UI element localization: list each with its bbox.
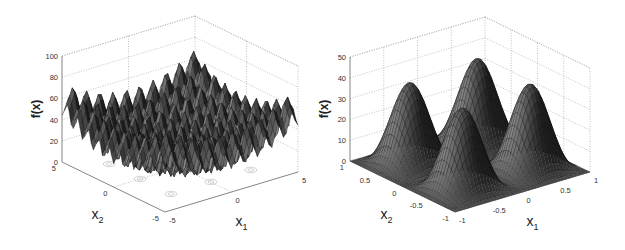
- x1-tick: 1: [594, 176, 598, 185]
- z-tick: 40: [338, 74, 346, 83]
- x2-tick: -1: [442, 214, 449, 223]
- z-tick: 80: [50, 73, 58, 82]
- z-tick: 40: [50, 116, 58, 125]
- x2-axis-label: x2: [381, 206, 393, 225]
- z-tick: 20: [338, 115, 346, 124]
- x1-tick: -0.5: [493, 206, 506, 215]
- x2-tick: -5: [152, 214, 159, 223]
- x2-tick: 0: [392, 189, 396, 198]
- x1-axis-label: x1: [527, 213, 539, 232]
- x2-tick: 0: [103, 189, 107, 198]
- left-surface-plot: 10080604020050-5-505f(x)x2x1: [0, 0, 312, 250]
- z-tick: 50: [338, 53, 346, 62]
- x1-tick: -5: [169, 216, 176, 225]
- x2-tick: 0.5: [360, 176, 370, 185]
- x2-tick: 5: [52, 164, 56, 173]
- x1-tick: 0: [236, 196, 240, 205]
- z-tick: 10: [338, 136, 346, 145]
- left-plot-canvas: 10080604020050-5-505f(x)x2x1: [0, 0, 312, 250]
- x1-axis-label: x1: [236, 213, 248, 232]
- right-surface-plot: 5040302010010.50-0.5-1-1-0.500.51f(x)x2x…: [312, 0, 624, 250]
- z-tick: 60: [50, 94, 58, 103]
- x1-tick: -1: [459, 216, 466, 225]
- surface-mesh: [350, 59, 590, 213]
- x1-tick: 5: [302, 176, 306, 185]
- z-tick: 30: [338, 95, 346, 104]
- x2-axis-label: x2: [92, 206, 104, 225]
- x1-tick: 0.5: [560, 186, 570, 195]
- z-tick: 20: [50, 137, 58, 146]
- right-plot-canvas: 5040302010010.50-0.5-1-1-0.500.51f(x)x2x…: [312, 0, 625, 250]
- z-axis-label: f(x): [317, 100, 331, 119]
- z-axis-label: f(x): [29, 100, 43, 119]
- x2-tick: -0.5: [410, 201, 423, 210]
- x2-tick: 1: [340, 163, 344, 172]
- x1-tick: 0: [527, 196, 531, 205]
- z-tick: 100: [45, 52, 58, 61]
